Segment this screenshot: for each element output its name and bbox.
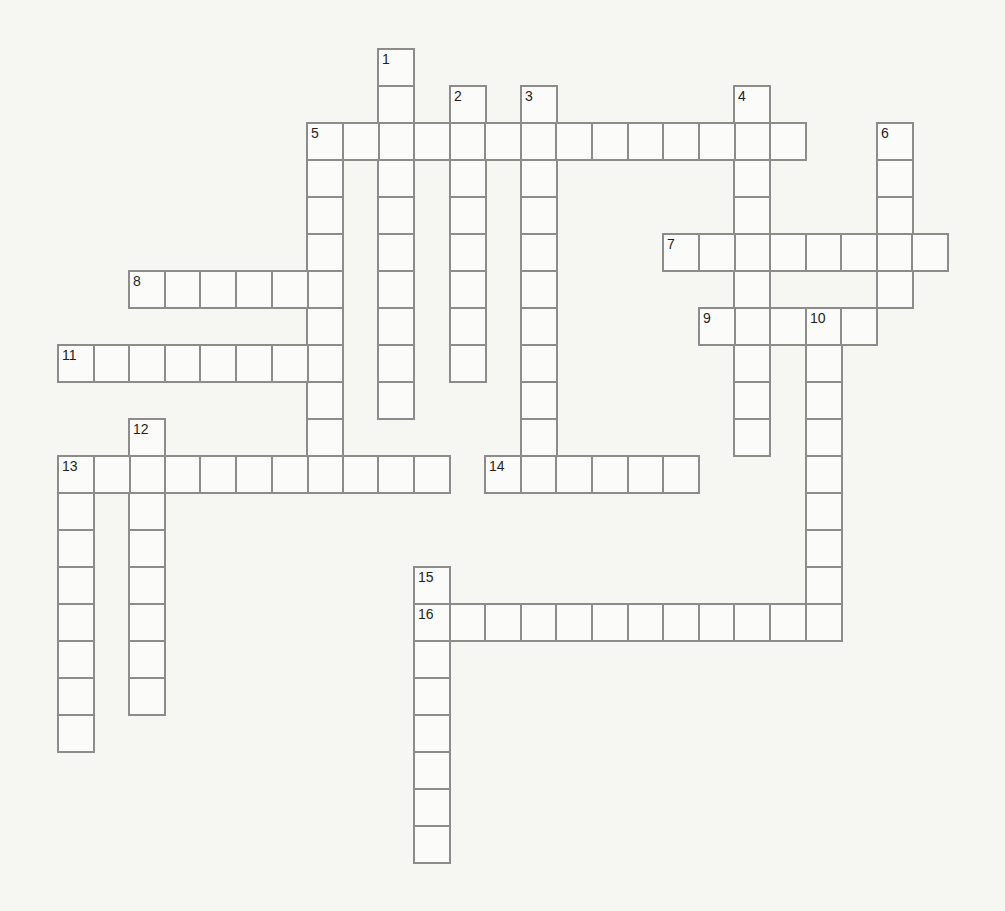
crossword-cell[interactable] xyxy=(805,233,843,272)
crossword-cell[interactable] xyxy=(449,344,487,383)
crossword-cell[interactable] xyxy=(555,122,593,161)
crossword-cell[interactable] xyxy=(733,159,771,198)
crossword-cell[interactable] xyxy=(413,788,451,827)
crossword-cell[interactable] xyxy=(128,566,166,605)
crossword-cell[interactable] xyxy=(413,825,451,864)
crossword-cell[interactable] xyxy=(911,233,949,272)
crossword-cell[interactable] xyxy=(520,196,558,235)
crossword-cell[interactable] xyxy=(555,455,593,494)
crossword-cell[interactable] xyxy=(627,603,665,642)
crossword-cell[interactable] xyxy=(733,122,771,161)
crossword-cell[interactable] xyxy=(520,603,558,642)
crossword-cell[interactable] xyxy=(733,344,771,383)
crossword-cell[interactable] xyxy=(413,455,451,494)
crossword-cell[interactable] xyxy=(733,418,771,457)
crossword-cell[interactable] xyxy=(591,603,629,642)
crossword-cell[interactable] xyxy=(876,196,914,235)
crossword-cell[interactable] xyxy=(520,381,558,420)
crossword-cell[interactable] xyxy=(377,381,415,420)
crossword-cell[interactable] xyxy=(57,714,95,753)
crossword-cell[interactable] xyxy=(555,603,593,642)
crossword-cell[interactable] xyxy=(662,122,700,161)
crossword-cell[interactable] xyxy=(449,122,487,161)
crossword-cell[interactable] xyxy=(413,677,451,716)
crossword-cell[interactable] xyxy=(57,566,95,605)
crossword-cell[interactable] xyxy=(128,492,166,531)
crossword-cell[interactable] xyxy=(627,455,665,494)
crossword-cell[interactable] xyxy=(449,603,487,642)
crossword-cell[interactable]: 6 xyxy=(876,122,914,161)
crossword-cell[interactable] xyxy=(199,270,237,309)
crossword-cell[interactable] xyxy=(377,270,415,309)
crossword-cell[interactable] xyxy=(733,381,771,420)
crossword-cell[interactable] xyxy=(520,455,558,494)
crossword-cell[interactable] xyxy=(306,307,344,346)
crossword-cell[interactable]: 15 xyxy=(413,566,451,605)
crossword-cell[interactable] xyxy=(306,159,344,198)
crossword-cell[interactable] xyxy=(484,603,522,642)
crossword-cell[interactable] xyxy=(769,307,807,346)
crossword-cell[interactable] xyxy=(876,159,914,198)
crossword-cell[interactable] xyxy=(627,122,665,161)
crossword-cell[interactable] xyxy=(57,677,95,716)
crossword-cell[interactable] xyxy=(128,529,166,568)
crossword-cell[interactable] xyxy=(733,270,771,309)
crossword-cell[interactable] xyxy=(662,455,700,494)
crossword-cell[interactable] xyxy=(271,270,309,309)
crossword-cell[interactable] xyxy=(271,455,309,494)
crossword-cell[interactable] xyxy=(306,270,344,309)
crossword-cell[interactable]: 9 xyxy=(698,307,736,346)
crossword-cell[interactable] xyxy=(377,159,415,198)
crossword-cell[interactable] xyxy=(733,307,771,346)
crossword-cell[interactable] xyxy=(769,122,807,161)
crossword-cell[interactable] xyxy=(520,159,558,198)
crossword-cell[interactable] xyxy=(377,196,415,235)
crossword-cell[interactable] xyxy=(271,344,309,383)
crossword-cell[interactable]: 3 xyxy=(520,85,558,124)
crossword-cell[interactable] xyxy=(449,159,487,198)
crossword-cell[interactable] xyxy=(128,603,166,642)
crossword-cell[interactable] xyxy=(377,344,415,383)
crossword-cell[interactable]: 16 xyxy=(413,603,451,642)
crossword-cell[interactable]: 11 xyxy=(57,344,95,383)
crossword-cell[interactable] xyxy=(128,344,166,383)
crossword-cell[interactable] xyxy=(449,233,487,272)
crossword-cell[interactable] xyxy=(449,307,487,346)
crossword-cell[interactable] xyxy=(57,492,95,531)
crossword-cell[interactable] xyxy=(805,344,843,383)
crossword-cell[interactable] xyxy=(840,307,878,346)
crossword-cell[interactable] xyxy=(342,455,380,494)
crossword-cell[interactable] xyxy=(591,122,629,161)
crossword-cell[interactable]: 5 xyxy=(306,122,344,161)
crossword-cell[interactable] xyxy=(57,603,95,642)
crossword-cell[interactable] xyxy=(876,270,914,309)
crossword-cell[interactable] xyxy=(377,233,415,272)
crossword-cell[interactable] xyxy=(805,455,843,494)
crossword-cell[interactable] xyxy=(128,677,166,716)
crossword-cell[interactable] xyxy=(698,233,736,272)
crossword-cell[interactable] xyxy=(805,566,843,605)
crossword-cell[interactable] xyxy=(520,418,558,457)
crossword-cell[interactable] xyxy=(164,270,202,309)
crossword-cell[interactable] xyxy=(306,381,344,420)
crossword-cell[interactable] xyxy=(413,122,451,161)
crossword-cell[interactable] xyxy=(164,344,202,383)
crossword-cell[interactable] xyxy=(413,751,451,790)
crossword-cell[interactable] xyxy=(306,233,344,272)
crossword-cell[interactable] xyxy=(57,640,95,679)
crossword-cell[interactable] xyxy=(520,307,558,346)
crossword-cell[interactable]: 8 xyxy=(128,270,166,309)
crossword-cell[interactable]: 13 xyxy=(57,455,95,494)
crossword-cell[interactable] xyxy=(769,603,807,642)
crossword-cell[interactable] xyxy=(128,640,166,679)
crossword-cell[interactable] xyxy=(235,455,273,494)
crossword-cell[interactable] xyxy=(128,455,166,494)
crossword-cell[interactable] xyxy=(484,122,522,161)
crossword-cell[interactable] xyxy=(93,455,131,494)
crossword-cell[interactable]: 4 xyxy=(733,85,771,124)
crossword-cell[interactable] xyxy=(591,455,629,494)
crossword-cell[interactable] xyxy=(57,529,95,568)
crossword-cell[interactable] xyxy=(805,529,843,568)
crossword-cell[interactable] xyxy=(520,122,558,161)
crossword-cell[interactable] xyxy=(449,196,487,235)
